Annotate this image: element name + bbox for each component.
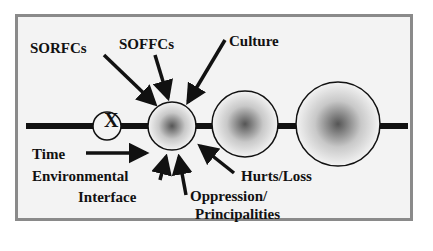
label-hurts-loss: Hurts/Loss bbox=[241, 168, 312, 184]
circle-medium bbox=[212, 91, 278, 157]
label-culture: Culture bbox=[229, 33, 279, 49]
circle-small bbox=[148, 102, 196, 150]
label-environmental: Environmental bbox=[32, 168, 128, 184]
label-time: Time bbox=[32, 146, 65, 162]
env-arrow bbox=[160, 157, 166, 180]
x-marker: X bbox=[104, 112, 118, 128]
opp-arrow bbox=[179, 157, 186, 195]
sorfcs-arrow bbox=[104, 55, 155, 104]
culture-arrow bbox=[188, 40, 225, 102]
circle-large bbox=[296, 82, 380, 166]
label-sorfcs: SORFCs bbox=[30, 40, 87, 56]
label-soffcs: SOFFCs bbox=[119, 36, 174, 52]
label-oppression: Oppression/ bbox=[190, 188, 267, 204]
label-principalities: Principalities bbox=[195, 206, 280, 222]
label-interface: Interface bbox=[78, 189, 136, 205]
soffcs-arrow bbox=[155, 55, 168, 98]
